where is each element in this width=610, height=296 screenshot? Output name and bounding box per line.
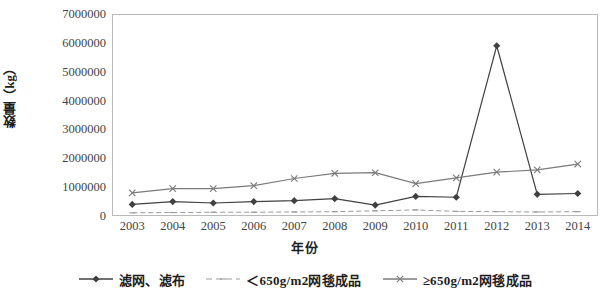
series-line	[132, 210, 578, 213]
y-axis-tick: 4000000	[62, 93, 106, 108]
data-point-marker	[129, 201, 136, 208]
series-line	[132, 164, 578, 193]
x-axis-tick: 2008	[322, 219, 347, 234]
data-point-marker	[291, 197, 298, 204]
data-point-marker	[453, 194, 460, 201]
legend-item-3[interactable]: ≥650g/m2网毯成品	[382, 270, 533, 289]
data-point-marker	[92, 275, 99, 282]
y-axis-tick: 1000000	[62, 180, 106, 195]
legend-marker-icon	[78, 273, 114, 285]
series-line	[132, 46, 578, 205]
legend-label: ＜650g/m2网毯成品	[246, 270, 362, 289]
data-point-marker	[574, 190, 581, 197]
legend-marker-icon	[382, 273, 418, 285]
y-axis-tick: 5000000	[62, 64, 106, 79]
plot-series-layer	[112, 14, 598, 216]
x-axis-tick: 2004	[160, 219, 185, 234]
x-axis-tick: 2009	[363, 219, 388, 234]
y-axis-tick: 2000000	[62, 151, 106, 166]
line-chart: 数量（kg） 010000002000000300000040000005000…	[0, 0, 610, 296]
data-point-marker	[331, 195, 338, 202]
y-axis-tick: 7000000	[62, 7, 106, 22]
x-axis-tick: 2003	[120, 219, 145, 234]
legend-label: ≥650g/m2网毯成品	[423, 270, 533, 289]
data-point-marker	[250, 198, 257, 205]
data-point-marker	[210, 199, 217, 206]
data-point-marker	[412, 193, 419, 200]
legend-item-2[interactable]: ＜650g/m2网毯成品	[205, 270, 362, 289]
x-axis-tick: 2013	[525, 219, 550, 234]
y-axis-tick: 0	[100, 209, 106, 224]
y-axis-tick: 6000000	[62, 35, 106, 50]
x-axis-tick: 2005	[201, 219, 226, 234]
x-axis-tick: 2007	[282, 219, 307, 234]
x-axis-tick: 2011	[444, 219, 469, 234]
data-point-marker	[169, 198, 176, 205]
legend-label: 滤网、滤布	[119, 270, 186, 289]
x-axis-tick: 2012	[484, 219, 509, 234]
x-axis-tick: 2014	[565, 219, 590, 234]
x-axis-tick-labels: 2003200420052006200720082009201020112012…	[112, 219, 598, 239]
chart-series-3	[129, 161, 581, 196]
data-point-marker	[493, 42, 500, 49]
data-point-marker	[372, 201, 379, 208]
chart-legend: 滤网、滤布＜650g/m2网毯成品≥650g/m2网毯成品	[0, 266, 610, 292]
y-axis-tick: 3000000	[62, 122, 106, 137]
chart-series-2	[129, 210, 581, 213]
chart-series-1	[129, 42, 582, 208]
legend-marker-icon	[205, 273, 241, 285]
x-axis-tick: 2006	[241, 219, 266, 234]
x-axis-tick: 2010	[403, 219, 428, 234]
legend-item-1[interactable]: 滤网、滤布	[78, 270, 186, 289]
data-point-marker	[534, 191, 541, 198]
x-axis-title: 年份	[0, 237, 610, 256]
